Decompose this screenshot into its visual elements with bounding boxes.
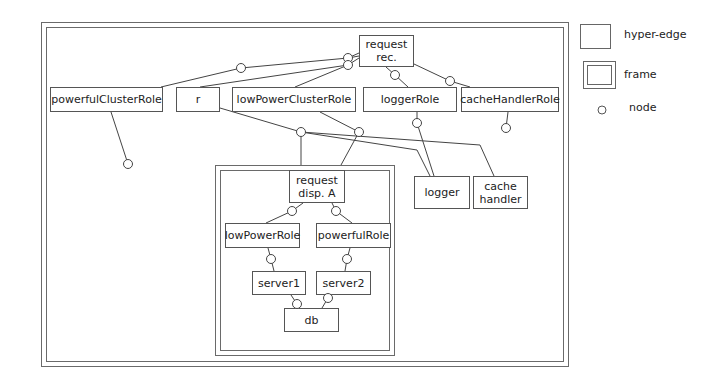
legend-hyper-edge-swatch <box>580 24 611 49</box>
node-n9 <box>413 119 422 128</box>
nodes-layer <box>0 0 725 386</box>
node-n12 <box>332 207 341 216</box>
node-n8 <box>355 128 364 137</box>
diagram-canvas: request rec.powerfulClusterRolerlowPower… <box>0 0 725 386</box>
node-n14 <box>343 255 352 264</box>
node-n13 <box>267 255 276 264</box>
node-n15 <box>293 300 302 309</box>
node-n4 <box>391 71 400 80</box>
node-n1 <box>237 64 246 73</box>
node-n10 <box>502 124 511 133</box>
node-n5 <box>446 77 455 86</box>
legend-frame-label: frame <box>624 68 657 81</box>
node-n6 <box>124 160 133 169</box>
node-n3 <box>344 61 353 70</box>
legend-hyper-edge-label: hyper-edge <box>624 28 687 41</box>
legend-node-label: node <box>629 101 656 114</box>
legend-frame-swatch <box>583 61 616 89</box>
node-n16 <box>324 294 333 303</box>
node-n11 <box>288 207 297 216</box>
node-n7 <box>297 128 306 137</box>
